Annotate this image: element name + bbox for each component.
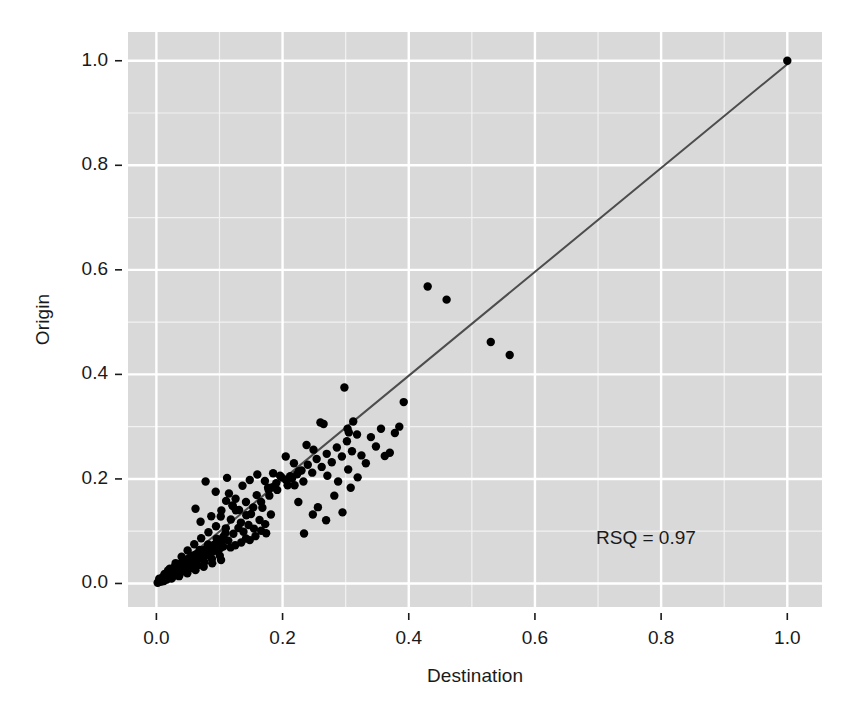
data-point: [204, 528, 212, 536]
data-point: [238, 482, 246, 490]
y-tick-label: 0.6: [82, 258, 108, 280]
data-point: [191, 566, 199, 574]
data-point: [319, 420, 327, 428]
data-point: [344, 465, 352, 473]
y-tick-label: 1.0: [82, 49, 108, 71]
data-point: [227, 515, 235, 523]
data-point: [349, 417, 357, 425]
scatter-plot-figure: Origin Destination RSQ = 0.97 0.00.20.40…: [0, 0, 851, 712]
data-point: [160, 577, 168, 585]
data-point: [322, 516, 330, 524]
plot-canvas: [0, 0, 851, 712]
data-point: [250, 524, 258, 532]
data-point: [353, 430, 361, 438]
data-point: [262, 529, 270, 537]
data-point: [299, 477, 307, 485]
data-point: [348, 447, 356, 455]
data-point: [290, 459, 298, 467]
data-point: [297, 466, 305, 474]
x-tick-label: 0.0: [116, 627, 196, 649]
data-point: [246, 476, 254, 484]
data-point: [362, 459, 370, 467]
data-point: [264, 486, 272, 494]
data-point: [242, 498, 250, 506]
data-point: [197, 534, 205, 542]
data-point: [294, 498, 302, 506]
data-point: [323, 472, 331, 480]
data-point: [353, 473, 361, 481]
data-point: [308, 468, 316, 476]
x-tick-label: 0.4: [369, 627, 449, 649]
x-tick-label: 0.8: [621, 627, 701, 649]
data-point: [487, 338, 495, 346]
data-point: [442, 295, 450, 303]
y-axis-title: Origin: [32, 294, 54, 345]
y-tick-label: 0.4: [82, 362, 108, 384]
data-point: [300, 529, 308, 537]
data-point: [309, 445, 317, 453]
data-point: [201, 477, 209, 485]
data-point: [226, 543, 234, 551]
data-point: [207, 512, 215, 520]
data-point: [242, 511, 250, 519]
data-point: [200, 563, 208, 571]
y-tick-label: 0.2: [82, 467, 108, 489]
data-point: [196, 518, 204, 526]
data-point: [222, 524, 230, 532]
data-point: [328, 458, 336, 466]
data-point: [338, 452, 346, 460]
data-point: [237, 518, 245, 526]
data-point: [276, 472, 284, 480]
data-point: [208, 559, 216, 567]
data-point: [309, 510, 317, 518]
data-point: [261, 477, 269, 485]
data-point: [345, 428, 353, 436]
data-point: [334, 477, 342, 485]
data-point: [223, 474, 231, 482]
data-point: [282, 452, 290, 460]
data-point: [367, 433, 375, 441]
data-point: [179, 557, 187, 565]
data-point: [304, 461, 312, 469]
data-point: [357, 451, 365, 459]
data-point: [225, 489, 233, 497]
data-point: [191, 505, 199, 513]
data-point: [217, 506, 225, 514]
data-point: [395, 422, 403, 430]
data-point: [340, 383, 348, 391]
data-point: [386, 449, 394, 457]
data-point: [302, 441, 310, 449]
y-tick-label: 0.8: [82, 153, 108, 175]
data-point: [195, 546, 203, 554]
data-point: [242, 534, 250, 542]
data-point: [183, 569, 191, 577]
data-point: [347, 484, 355, 492]
rsq-annotation: RSQ = 0.97: [496, 527, 696, 549]
x-tick-label: 1.0: [747, 627, 827, 649]
data-point: [211, 488, 219, 496]
data-point: [317, 463, 325, 471]
data-point: [314, 503, 322, 511]
data-point: [229, 502, 237, 510]
data-point: [267, 510, 275, 518]
x-tick-label: 0.2: [243, 627, 323, 649]
data-point: [400, 398, 408, 406]
data-point: [783, 57, 791, 65]
data-point: [323, 450, 331, 458]
data-point: [249, 503, 257, 511]
data-point: [171, 562, 179, 570]
y-tick-label: 0.0: [82, 571, 108, 593]
data-point: [175, 572, 183, 580]
data-point: [338, 508, 346, 516]
data-point: [187, 552, 195, 560]
data-point: [333, 443, 341, 451]
data-point: [372, 442, 380, 450]
data-point: [253, 470, 261, 478]
data-point: [167, 574, 175, 582]
x-axis-title: Destination: [128, 665, 822, 687]
data-point: [312, 455, 320, 463]
data-point: [330, 491, 338, 499]
data-point: [257, 498, 265, 506]
data-point: [423, 282, 431, 290]
data-point: [506, 351, 514, 359]
